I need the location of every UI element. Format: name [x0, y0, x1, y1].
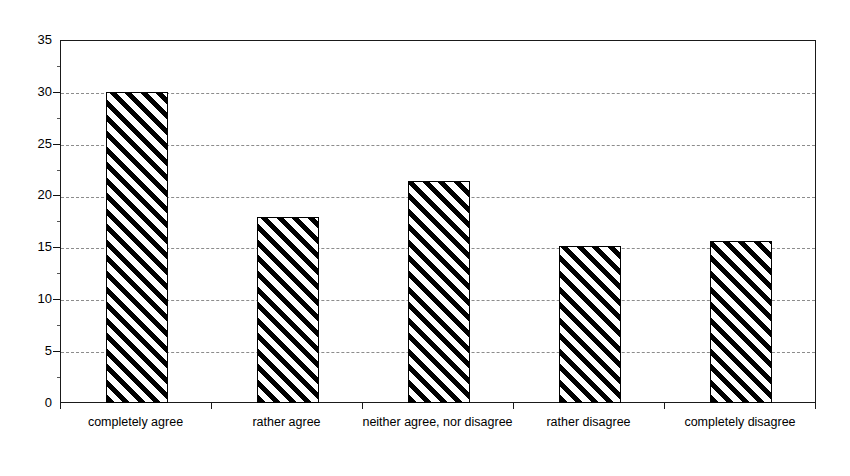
bar-completely-disagree: [710, 241, 772, 403]
bar-rather-disagree: [559, 246, 621, 403]
y-tick-label-5: 5: [8, 344, 52, 357]
x-axis: completely agree rather agree neither ag…: [60, 414, 816, 470]
x-axis-tick: [664, 403, 665, 409]
x-axis-tick: [815, 403, 816, 409]
x-axis-tick: [362, 403, 363, 409]
x-axis-tick: [211, 403, 212, 409]
y-tick-label-20: 20: [8, 188, 52, 201]
y-tick-label-25: 25: [8, 137, 52, 150]
bar-rather-agree: [257, 217, 319, 403]
y-tick-label-35: 35: [8, 33, 52, 46]
x-axis-label-completely-agree: completely agree: [60, 414, 211, 430]
y-tick-label-15: 15: [8, 240, 52, 253]
bar-completely-agree: [106, 92, 168, 403]
x-axis-tick: [513, 403, 514, 409]
bar-neither-agree-nor-disagree: [408, 181, 470, 403]
bar-chart: 35 30 25 20 15 10 5 0: [0, 0, 850, 476]
x-axis-label-completely-disagree: completely disagree: [664, 414, 816, 430]
y-axis: 35 30 25 20 15 10 5 0: [0, 0, 52, 476]
x-axis-label-rather-agree: rather agree: [211, 414, 362, 430]
x-axis-label-rather-disagree: rather disagree: [513, 414, 664, 430]
y-tick-label-10: 10: [8, 292, 52, 305]
x-axis-label-neither-agree-nor-disagree: neither agree, nor disagree: [362, 414, 513, 430]
y-tick-label-30: 30: [8, 85, 52, 98]
y-tick-label-0: 0: [8, 396, 52, 409]
x-axis-tick: [60, 403, 61, 409]
bars-layer: [60, 40, 816, 403]
